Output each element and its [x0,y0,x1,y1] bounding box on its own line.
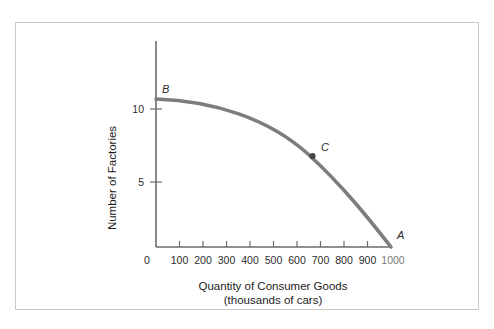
x-tick-label-0: 0 [144,254,150,266]
x-tick-label-400: 400 [241,254,259,266]
x-tick-label-800: 800 [335,254,353,266]
y-tick-label-5: 5 [138,176,144,188]
x-tick-label-700: 700 [312,254,330,266]
x-tick-label-600: 600 [288,254,306,266]
ppf-curve [156,99,391,247]
y-tick-label-10: 10 [132,103,144,115]
y-axis-title: Number of Factories [106,126,118,230]
ppf-chart-svg: 10 5 0 100 200 300 400 500 600 700 800 9… [16,23,480,311]
chart-plot-area: 10 5 0 100 200 300 400 500 600 700 800 9… [16,23,480,311]
point-c-marker [309,153,315,159]
x-tick-label-900: 900 [359,254,377,266]
x-tick-label-200: 200 [194,254,212,266]
point-c-label: C [321,141,329,153]
x-tick-label-100: 100 [171,254,189,266]
figure-frame: 10 5 0 100 200 300 400 500 600 700 800 9… [15,22,479,310]
x-axis-title: Quantity of Consumer Goods [199,280,348,292]
x-tick-label-300: 300 [218,254,236,266]
point-b-label: B [162,83,169,95]
x-tick-label-500: 500 [265,254,283,266]
x-tick-label-1000: 1000 [381,254,405,266]
x-axis-subtitle: (thousands of cars) [224,294,323,306]
point-a-label: A [396,229,404,241]
